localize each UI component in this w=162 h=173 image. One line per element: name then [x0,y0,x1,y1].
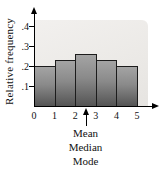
annotation-line: Mean [50,126,122,140]
annotation-line: Median [50,140,122,154]
x-tick-label: 1 [49,110,61,121]
x-tick-label: 0 [28,110,40,121]
bar [55,60,77,106]
y-axis-arrow-icon [31,7,37,14]
annotation-line: Mode [50,154,122,168]
x-tick-label: 4 [110,110,122,121]
annotation-arrow-shaft [86,114,87,126]
x-tick-label: 3 [90,110,102,121]
bar [116,66,138,106]
bar [96,60,118,106]
y-tick-label: .3 [10,41,29,52]
annotation-labels: MeanMedianMode [50,126,122,168]
bar [34,66,56,106]
y-tick-label: .2 [10,61,29,72]
y-axis-line [34,12,35,106]
histogram-figure: Relative frequency .1.2.3.4 012345 MeanM… [0,0,162,173]
x-axis-line [34,106,154,107]
x-tick-label: 2 [69,110,81,121]
bar [75,54,97,106]
y-tick-label: .4 [10,21,29,32]
x-axis-arrow-icon [152,103,159,109]
x-tick-label: 5 [131,110,143,121]
y-tick-label: .1 [10,81,29,92]
